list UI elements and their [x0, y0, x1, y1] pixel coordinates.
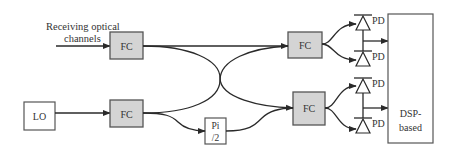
dsp-block: DSP- based	[388, 14, 433, 143]
fc-top-right-block: FC	[288, 32, 322, 58]
photodiode-1: PD	[354, 15, 385, 30]
fc-top-right-label: FC	[299, 40, 312, 51]
photodiode-4: PD	[354, 118, 385, 133]
photodiode-2: PD	[354, 51, 385, 66]
fc-top-left-block: FC	[110, 32, 143, 59]
pd2-label: PD	[372, 51, 385, 62]
fc-bottom-left-block: FC	[110, 100, 143, 127]
input-label-line1: Receiving optical	[46, 21, 120, 32]
pd4-label: PD	[372, 118, 385, 129]
fc-top-left-label: FC	[120, 41, 133, 52]
phase-shifter-label-line1: Pi	[212, 121, 220, 131]
lo-block: LO	[24, 102, 55, 130]
fiber-lo-to-phase-shifter	[143, 113, 205, 131]
fiber-bottom-fc-to-pd3	[325, 86, 356, 108]
pd1-label: PD	[372, 15, 385, 26]
fiber-lo-to-top-fc	[143, 46, 288, 113]
fiber-top-fc-to-pd1	[322, 24, 356, 44]
phase-shifter-label-line2: /2	[212, 133, 220, 143]
dsp-label-line2: based	[399, 122, 422, 133]
fc-bottom-right-label: FC	[303, 103, 316, 114]
fiber-signal-to-bottom-fc	[143, 46, 293, 108]
pd3-label: PD	[372, 78, 385, 89]
fc-bottom-right-block: FC	[293, 92, 325, 125]
fiber-top-fc-to-pd2	[322, 44, 356, 60]
input-label-line2: channels	[64, 33, 101, 44]
dsp-label-line1: DSP-	[400, 108, 422, 119]
fiber-phase-shifter-to-bottom-fc	[226, 108, 293, 131]
photodiode-3: PD	[354, 78, 385, 93]
fiber-bottom-fc-to-pd4	[325, 108, 356, 129]
phase-shifter-block: Pi /2	[205, 118, 226, 144]
coherent-receiver-diagram: Receiving optical channels LO FC FC Pi /…	[0, 0, 455, 151]
fc-bottom-left-label: FC	[120, 109, 133, 120]
lo-label: LO	[33, 111, 46, 122]
